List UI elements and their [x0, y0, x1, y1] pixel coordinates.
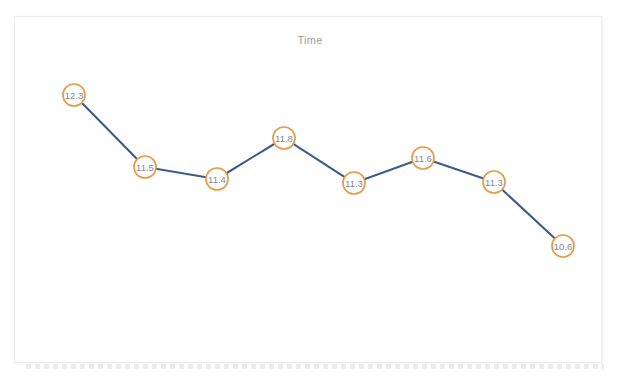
data-point-marker[interactable] — [273, 127, 295, 149]
baseline-artifact-strip — [26, 364, 604, 369]
chart-card — [14, 16, 602, 363]
data-point-marker[interactable] — [206, 168, 228, 190]
data-point-marker[interactable] — [63, 84, 85, 106]
data-point-marker[interactable] — [483, 171, 505, 193]
data-point-marker[interactable] — [343, 172, 365, 194]
chart-title: Time — [0, 34, 620, 46]
data-point-marker[interactable] — [134, 156, 156, 178]
data-point-marker[interactable] — [552, 235, 574, 257]
data-point-marker[interactable] — [412, 147, 434, 169]
